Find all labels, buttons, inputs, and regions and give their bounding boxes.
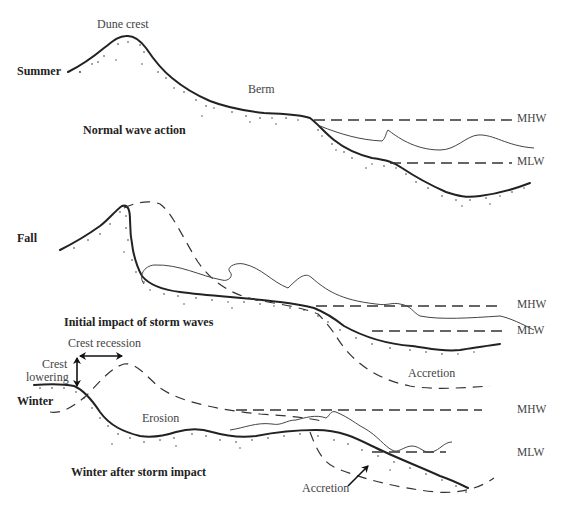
fall-panel: [60, 202, 534, 388]
winter-season-label: Winter: [17, 395, 53, 407]
fall-mlw-label: MLW: [517, 325, 544, 337]
fall-season-label: Fall: [17, 232, 37, 244]
winter-wave-line: [230, 412, 452, 453]
berm-label: Berm: [248, 83, 275, 95]
winter-former-profile-dashed: [50, 364, 326, 422]
summer-mhw-label: MHW: [517, 113, 546, 125]
summer-beach-profile: [68, 36, 530, 197]
summer-season-label: Summer: [17, 65, 61, 77]
accretion-pointer-arrow: [348, 466, 368, 486]
fall-accretion-label: Accretion: [408, 367, 455, 379]
winter-mhw-label: MHW: [517, 404, 546, 416]
winter-caption: Winter after storm impact: [71, 466, 206, 478]
crest-lowering-label-1: Crest: [42, 358, 67, 370]
winter-mlw-label: MLW: [517, 447, 544, 459]
fall-former-profile-dashed: [124, 202, 490, 388]
fall-caption: Initial impact of storm waves: [64, 316, 213, 328]
crest-recession-label: Crest recession: [68, 337, 141, 349]
fall-sand-stipple: [73, 211, 475, 355]
dune-crest-label: Dune crest: [97, 18, 149, 30]
crest-lowering-label-2: lowering: [26, 371, 69, 383]
erosion-label: Erosion: [142, 412, 179, 424]
summer-panel: [68, 36, 534, 207]
winter-accretion-label: Accretion: [302, 482, 349, 494]
beach-profile-diagram: [0, 0, 562, 515]
summer-wave-line: [320, 126, 534, 150]
summer-mlw-label: MLW: [517, 156, 544, 168]
summer-caption: Normal wave action: [83, 124, 186, 136]
fall-mhw-label: MHW: [517, 299, 546, 311]
